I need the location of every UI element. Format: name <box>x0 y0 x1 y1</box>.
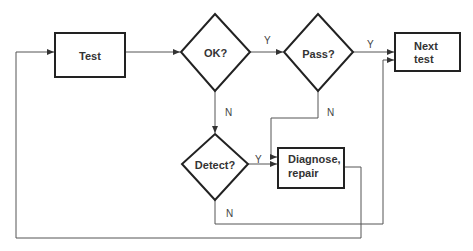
edge-label-detect-next: N <box>226 207 233 220</box>
flowchart-canvas: Test OK? Pass? Next test Detect? Diagnos… <box>0 0 473 251</box>
node-test-label: Test <box>55 50 125 63</box>
edge-label-ok-pass: Y <box>264 34 271 47</box>
node-diagnose-label-line2: repair <box>288 167 319 180</box>
edge-label-detect-diagnose: Y <box>255 153 262 166</box>
node-next-label-line1: Next <box>414 40 438 53</box>
node-detect-label: Detect? <box>182 159 248 172</box>
edge-label-pass-diagnose: N <box>327 106 334 119</box>
flowchart-connectors <box>0 0 473 251</box>
node-pass-label: Pass? <box>284 48 353 61</box>
edge-label-ok-detect: N <box>225 106 232 119</box>
edge-label-pass-next: Y <box>367 38 374 51</box>
node-diagnose-label-line1: Diagnose, <box>288 153 341 166</box>
node-next-label-line2: test <box>414 53 434 66</box>
node-ok-label: OK? <box>181 47 250 60</box>
edge-detect-next <box>215 60 394 224</box>
